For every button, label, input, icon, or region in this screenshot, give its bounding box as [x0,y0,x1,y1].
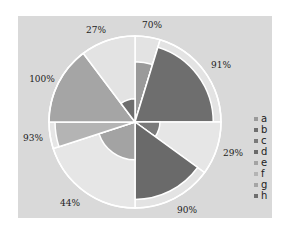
legend-item-f[interactable]: f [254,168,284,179]
legend-swatch [254,161,258,165]
sector-h-label: 27% [86,25,106,35]
legend-item-a[interactable]: a [254,113,284,124]
legend: abcdefgh [254,113,284,201]
legend-swatch [254,128,258,132]
sector-f-label: 93% [23,133,43,143]
legend-item-c[interactable]: c [254,135,284,146]
polar-area-chart: 70%91%29%90%44%93%100%27% [0,0,288,232]
legend-item-e[interactable]: e [254,157,284,168]
legend-swatch [254,172,258,176]
legend-swatch [254,117,258,121]
sector-b-label: 91% [211,60,231,70]
legend-label: g [261,179,267,190]
sector-c-label: 29% [223,148,243,158]
legend-swatch [254,183,258,187]
sector-d-label: 90% [177,205,197,215]
legend-label: f [261,168,265,179]
legend-swatch [254,139,258,143]
legend-label: a [261,113,267,124]
legend-label: e [261,157,267,168]
legend-item-h[interactable]: h [254,190,284,201]
legend-item-d[interactable]: d [254,146,284,157]
sector-e-label: 44% [60,198,80,208]
sector-g-label: 100% [29,74,55,84]
legend-swatch [254,150,258,154]
legend-label: b [261,124,267,135]
legend-label: c [261,135,267,146]
sector-a-label: 70% [142,20,162,30]
legend-item-b[interactable]: b [254,124,284,135]
legend-label: h [261,190,267,201]
legend-item-g[interactable]: g [254,179,284,190]
legend-swatch [254,194,258,198]
legend-label: d [261,146,267,157]
